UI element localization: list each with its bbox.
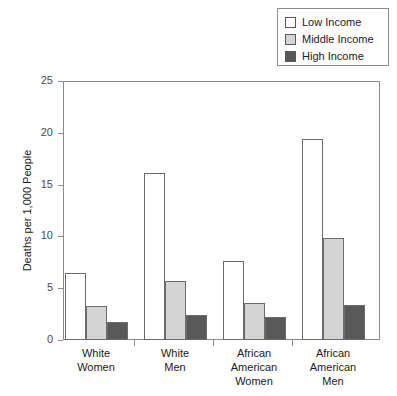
- legend-label-low-income: Low Income: [302, 16, 361, 28]
- bar[interactable]: [107, 322, 128, 340]
- legend-swatch-low-income: [285, 17, 296, 28]
- y-axis-title: Deaths per 1,000 People: [18, 81, 36, 340]
- y-axis-tick-25: 25: [0, 81, 63, 82]
- x-axis-category-label: AfricanAmericanWomen: [211, 346, 297, 388]
- x-axis-category-line: White: [53, 346, 139, 360]
- bar[interactable]: [344, 305, 365, 340]
- x-axis-category-line: Men: [132, 360, 218, 374]
- y-axis-tick-15: 15: [0, 185, 63, 186]
- x-axis-category-label: WhiteWomen: [53, 346, 139, 374]
- legend-item-middle-income: Middle Income: [285, 31, 388, 47]
- legend-item-low-income: Low Income: [285, 14, 388, 30]
- legend-item-high-income: High Income: [285, 48, 388, 64]
- y-axis-tick-0: 0: [0, 340, 63, 341]
- legend-swatch-middle-income: [285, 34, 296, 45]
- bar[interactable]: [223, 261, 244, 340]
- y-axis-tick-label: 5: [47, 281, 53, 294]
- y-axis-tick-label: 15: [41, 178, 53, 191]
- legend-label-middle-income: Middle Income: [302, 33, 374, 45]
- bars-layer: [63, 81, 380, 340]
- x-axis-category-line: American: [211, 360, 297, 374]
- bar-group: [64, 81, 129, 340]
- bar[interactable]: [265, 317, 286, 340]
- y-axis-tick-label: 20: [41, 126, 53, 139]
- y-axis-tick-20: 20: [0, 133, 63, 134]
- bar[interactable]: [144, 173, 165, 340]
- x-axis-category-line: American: [290, 360, 376, 374]
- x-axis-category-line: Women: [53, 360, 139, 374]
- x-axis-category-line: African: [211, 346, 297, 360]
- bar-group: [143, 81, 208, 340]
- chart-legend: Low Income Middle Income High Income: [277, 8, 389, 66]
- bar-group: [301, 81, 366, 340]
- bar[interactable]: [323, 238, 344, 340]
- bar-group: [222, 81, 287, 340]
- x-axis-category-label: WhiteMen: [132, 346, 218, 374]
- y-axis-tick-label: 25: [41, 74, 53, 87]
- bar[interactable]: [65, 273, 86, 340]
- y-axis-tick-label: 10: [41, 229, 53, 242]
- bar[interactable]: [86, 306, 107, 340]
- bar[interactable]: [302, 139, 323, 340]
- y-axis-tick-10: 10: [0, 236, 63, 237]
- bar[interactable]: [186, 315, 207, 340]
- y-axis-tick-5: 5: [0, 288, 63, 289]
- legend-label-high-income: High Income: [302, 50, 364, 62]
- x-axis-category-line: Men: [290, 374, 376, 388]
- x-axis-category-line: African: [290, 346, 376, 360]
- bar[interactable]: [165, 281, 186, 340]
- legend-swatch-high-income: [285, 51, 296, 62]
- bar[interactable]: [244, 303, 265, 340]
- x-axis-category-label: AfricanAmericanMen: [290, 346, 376, 388]
- x-axis-category-line: Women: [211, 374, 297, 388]
- y-axis-tick-label: 0: [47, 333, 53, 346]
- y-axis-tick-mark: [58, 340, 63, 341]
- x-axis-category-line: White: [132, 346, 218, 360]
